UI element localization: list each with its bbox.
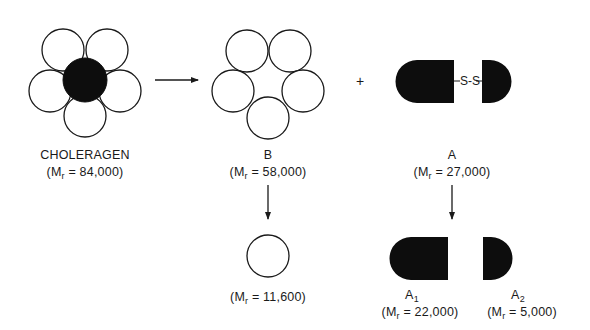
b-subunit-circle [212,70,254,112]
disulfide-label: S-S [460,75,480,87]
choleragen-label: CHOLERAGEN [40,148,130,162]
a-subunit-core [63,58,107,102]
a-subunit [396,60,512,103]
a2-fragment-shape [483,237,513,280]
b-subunit-circle [247,97,289,139]
a-mr: (Mr = 27,000) [414,165,491,179]
a-label: A [448,148,457,162]
choleragen-mr: (Mr = 84,000) [47,165,124,179]
a1-label: A1 [405,288,419,302]
b-subunit-circle [282,70,324,112]
b-subunit-circle [269,30,311,72]
a1-fragment-shape [390,237,449,280]
a1-mr: (Mr = 22,000) [382,305,459,319]
plus-operator: + [356,74,364,88]
a2-chain-shape [482,60,512,103]
a2-mr: (Mr = 5,000) [487,305,557,319]
a1-chain-shape [396,60,455,103]
b-subunit-circle [226,30,268,72]
b-monomer-circle [247,235,289,277]
b-label: B [264,148,273,162]
b-pentamer [212,30,324,139]
choleragen-molecule [29,29,141,137]
b-mr: (Mr = 58,000) [230,165,307,179]
b-monomer-mr: (Mr = 11,600) [230,290,306,304]
a2-label: A2 [511,288,525,302]
